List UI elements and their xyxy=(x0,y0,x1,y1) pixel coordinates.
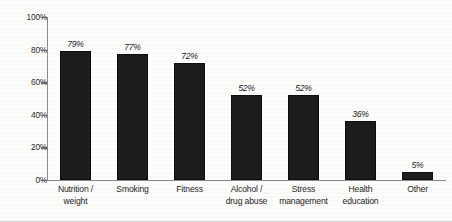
y-tick-label: 40% xyxy=(9,110,47,120)
y-tick-label: 100% xyxy=(9,12,47,22)
chart-page: 0%20%40%60%80%100% 79%77%72%52%52%36%5% … xyxy=(0,0,452,222)
y-tick-label: 60% xyxy=(9,77,47,87)
category-label: Nutrition / weight xyxy=(47,184,104,207)
bar-value-label: 52% xyxy=(219,83,275,93)
bar-value-label: 5% xyxy=(390,160,446,170)
category-label: Stress management xyxy=(275,184,332,207)
bar xyxy=(231,95,262,180)
bar-value-label: 79% xyxy=(48,39,104,49)
bar xyxy=(345,121,376,180)
x-axis-line xyxy=(47,180,446,181)
bar xyxy=(117,54,148,180)
bar-value-label: 36% xyxy=(333,109,389,119)
bar xyxy=(402,172,433,180)
category-label: Other xyxy=(389,184,446,196)
bar-value-label: 72% xyxy=(162,51,218,61)
bar xyxy=(288,95,319,180)
category-label: Health education xyxy=(332,184,389,207)
bar xyxy=(174,63,205,180)
bar-value-label: 77% xyxy=(105,42,161,52)
y-tick-label: 0% xyxy=(9,175,47,185)
category-label: Smoking xyxy=(104,184,161,196)
bar-chart: 0%20%40%60%80%100% 79%77%72%52%52%36%5% … xyxy=(0,0,452,222)
category-label: Fitness xyxy=(161,184,218,196)
bar-value-label: 52% xyxy=(276,83,332,93)
y-tick-label: 80% xyxy=(9,45,47,55)
bar xyxy=(60,51,91,180)
y-tick-label: 20% xyxy=(9,142,47,152)
category-label: Alcohol / drug abuse xyxy=(218,184,275,207)
